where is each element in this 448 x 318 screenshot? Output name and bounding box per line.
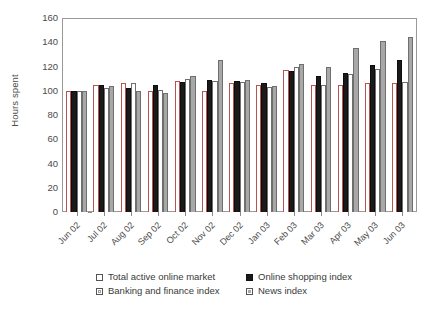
y-tick-label: 100 xyxy=(28,86,58,96)
y-axis: 020406080100120140160 xyxy=(28,18,58,212)
x-axis-labels: Jun 02Jul 02Aug 02Sep 02Oct 02Nov 02Dec … xyxy=(62,218,417,258)
x-tick-mark xyxy=(267,212,268,216)
legend-swatch-icon xyxy=(96,274,103,281)
legend-item[interactable]: News index xyxy=(246,286,396,296)
legend-swatch-icon xyxy=(246,274,253,281)
x-label-slot: Jun 03 xyxy=(389,218,416,258)
chart-legend: Total active online marketOnline shoppin… xyxy=(96,270,396,298)
y-tick-label: 160 xyxy=(28,13,58,23)
bar-chart: Hours spent 020406080100120140160 Jun 02… xyxy=(0,0,448,318)
legend-swatch-icon xyxy=(246,288,253,295)
legend-label: Total active online market xyxy=(108,272,215,282)
legend-item[interactable]: Online shopping index xyxy=(246,272,396,282)
x-tick-mark xyxy=(104,212,105,216)
y-tick-label: 120 xyxy=(28,62,58,72)
y-tick-label: 0 xyxy=(28,207,58,217)
y-tick-label: 60 xyxy=(28,135,58,145)
plot-area xyxy=(62,18,417,212)
y-tick-label: 80 xyxy=(28,110,58,120)
legend-swatch-icon xyxy=(96,288,103,295)
x-tick-label-text: Jun 02 xyxy=(55,220,81,246)
legend-label: Online shopping index xyxy=(258,272,352,282)
x-tick-mark xyxy=(77,212,78,216)
legend-item[interactable]: Total active online market xyxy=(96,272,246,282)
legend-label: Banking and finance index xyxy=(108,286,219,296)
legend-item[interactable]: Banking and finance index xyxy=(96,286,246,296)
y-tick-label: 20 xyxy=(28,183,58,193)
legend-label: News index xyxy=(258,286,307,296)
y-tick-label: 140 xyxy=(28,38,58,48)
x-tick-mark xyxy=(240,212,241,216)
y-tick-label: 40 xyxy=(28,159,58,169)
y-axis-title: Hours spent xyxy=(9,51,20,151)
